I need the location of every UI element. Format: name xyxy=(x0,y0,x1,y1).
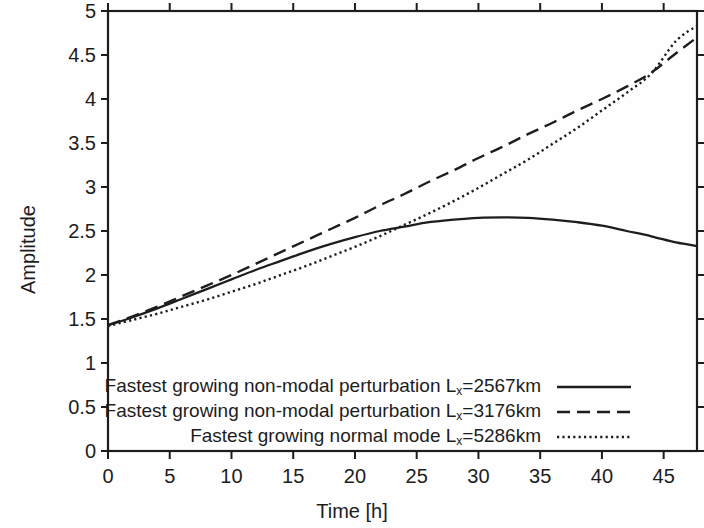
y-tick-label-4: 2 xyxy=(30,265,96,285)
y-tick-label-0: 0 xyxy=(30,441,96,461)
y-tick-label-6: 3 xyxy=(30,177,96,197)
y-tick-label-8: 4 xyxy=(30,89,96,109)
x-tick-label-0: 0 xyxy=(102,466,113,486)
legend-entry-2: Fastest growing normal mode Lx=5286km xyxy=(118,424,633,449)
chart-figure: 00.511.522.533.544.55 051015202530354045… xyxy=(0,0,704,528)
legend-line-sample-1 xyxy=(555,404,633,420)
legend-line-sample-2 xyxy=(555,429,633,445)
data-series xyxy=(108,26,697,326)
y-axis-title: Amplitude xyxy=(17,190,40,310)
legend-label-1: Fastest growing non-modal perturbation L… xyxy=(105,401,541,423)
x-tick-label-2: 10 xyxy=(220,466,242,486)
legend-line-sample-0 xyxy=(555,379,633,395)
y-tick-label-10: 5 xyxy=(30,1,96,21)
legend-label-subscript-1: x xyxy=(456,409,462,423)
chart-legend: Fastest growing non-modal perturbation L… xyxy=(118,374,633,449)
x-tick-label-8: 40 xyxy=(591,466,613,486)
y-tick-label-1: 0.5 xyxy=(30,397,96,417)
x-axis-title: Time [h] xyxy=(0,500,704,523)
x-tick-label-9: 45 xyxy=(653,466,675,486)
y-tick-label-7: 3.5 xyxy=(30,133,96,153)
legend-label-0: Fastest growing non-modal perturbation L… xyxy=(105,376,541,398)
series-line-2 xyxy=(108,26,697,326)
y-tick-label-9: 4.5 xyxy=(30,45,96,65)
series-line-0 xyxy=(108,217,697,325)
y-tick-label-5: 2.5 xyxy=(30,221,96,241)
x-tick-label-3: 15 xyxy=(282,466,304,486)
x-tick-label-4: 20 xyxy=(344,466,366,486)
y-tick-label-3: 1.5 xyxy=(30,309,96,329)
y-tick-label-2: 1 xyxy=(30,353,96,373)
legend-entry-0: Fastest growing non-modal perturbation L… xyxy=(118,374,633,399)
series-line-1 xyxy=(108,37,697,325)
x-tick-label-7: 35 xyxy=(529,466,551,486)
x-tick-label-6: 30 xyxy=(467,466,489,486)
x-tick-label-5: 25 xyxy=(406,466,428,486)
legend-label-subscript-2: x xyxy=(456,434,462,448)
legend-label-subscript-0: x xyxy=(456,384,462,398)
x-tick-label-1: 5 xyxy=(164,466,175,486)
legend-label-2: Fastest growing normal mode Lx=5286km xyxy=(190,426,541,448)
legend-entry-1: Fastest growing non-modal perturbation L… xyxy=(118,399,633,424)
